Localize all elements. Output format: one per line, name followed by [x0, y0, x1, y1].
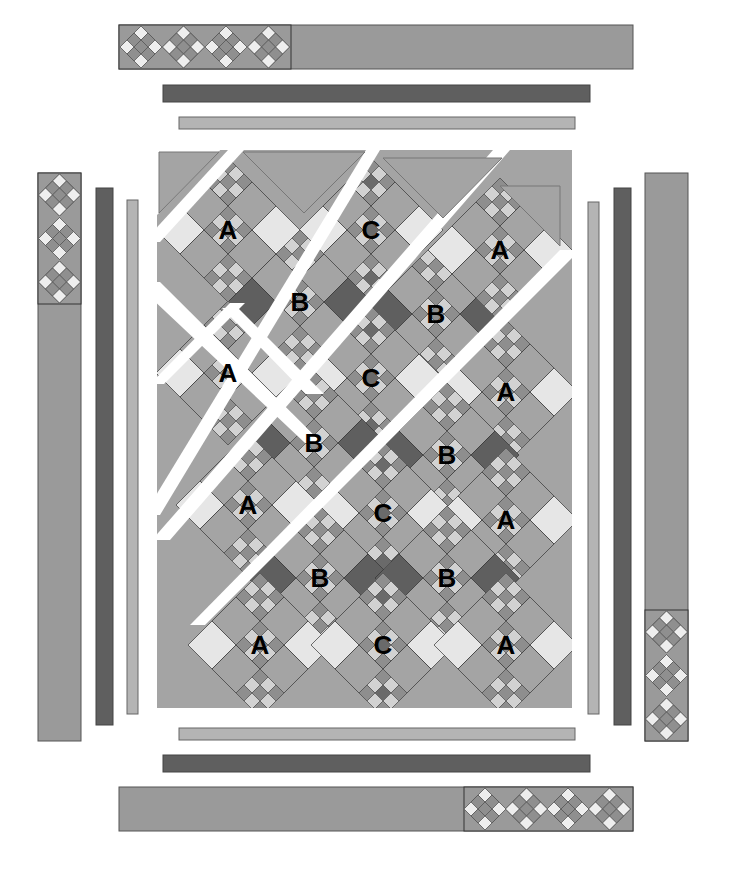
right-ninepatch-column: [646, 611, 688, 740]
block-label: C: [362, 363, 381, 393]
bottom-dark-border: [163, 755, 590, 772]
block-label: A: [497, 505, 516, 535]
top-outer-border: [119, 25, 633, 69]
block-label: A: [219, 215, 238, 245]
left-inner-border: [127, 200, 138, 714]
block-label: C: [362, 215, 381, 245]
block-label: B: [427, 299, 446, 329]
block-label: C: [374, 498, 393, 528]
left-ninepatch-column: [39, 174, 81, 303]
block-label: C: [374, 630, 393, 660]
block-label: B: [291, 287, 310, 317]
block-label: B: [305, 428, 324, 458]
block-label: A: [251, 630, 270, 660]
bottom-outer-border: [119, 787, 633, 831]
right-outer-border: [645, 173, 688, 741]
right-inner-border: [588, 202, 599, 714]
block-label: A: [219, 358, 238, 388]
left-outer-border: [38, 173, 81, 741]
block-label: A: [497, 377, 516, 407]
block-label: B: [311, 563, 330, 593]
bottom-inner-border: [179, 728, 575, 740]
block-label: A: [497, 630, 516, 660]
right-dark-border: [614, 188, 631, 725]
top-dark-border: [163, 85, 590, 102]
block-label: B: [438, 563, 457, 593]
left-dark-border: [96, 188, 113, 725]
quilt-assembly-diagram: ACBBAACABBACABBACA: [0, 0, 732, 872]
block-label: A: [239, 490, 258, 520]
top-inner-border: [179, 117, 575, 129]
block-label: B: [438, 440, 457, 470]
block-label: A: [491, 235, 510, 265]
